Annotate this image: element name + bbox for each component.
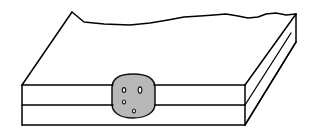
block-diagram — [0, 0, 311, 137]
speckle-bottom — [133, 109, 136, 113]
speckle-lower-left — [123, 100, 126, 104]
speckle-upper-right — [138, 87, 142, 93]
speckle-upper-left — [122, 88, 125, 93]
figure-root: Geologic block diagram with stratified l… — [0, 0, 311, 137]
